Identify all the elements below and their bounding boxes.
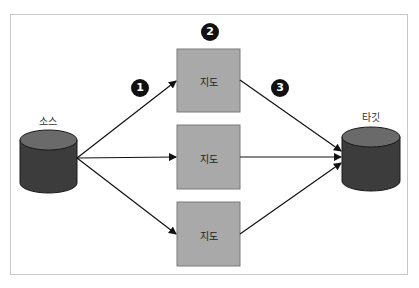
step-badge-1-number: 1 <box>131 79 149 97</box>
map-box-1-label: 지도 <box>177 74 240 89</box>
step-badge-3-number: 3 <box>271 79 289 97</box>
arrow-source-to-map-1 <box>77 81 176 158</box>
target-database-icon <box>342 127 400 191</box>
arrow-map-3-to-target <box>240 163 341 234</box>
source-label: 소스 <box>28 113 68 128</box>
source-database-icon <box>20 130 77 193</box>
arrow-map-1-to-target <box>240 80 341 151</box>
map-box-2-label: 지도 <box>177 151 240 166</box>
arrow-source-to-map-3 <box>77 158 176 234</box>
step-badge-2-number: 2 <box>201 23 219 41</box>
map-box-3-label: 지도 <box>177 228 240 243</box>
arrow-source-to-map-2 <box>77 157 176 158</box>
target-label: 타깃 <box>351 109 391 124</box>
pipeline-diagram <box>0 0 419 288</box>
